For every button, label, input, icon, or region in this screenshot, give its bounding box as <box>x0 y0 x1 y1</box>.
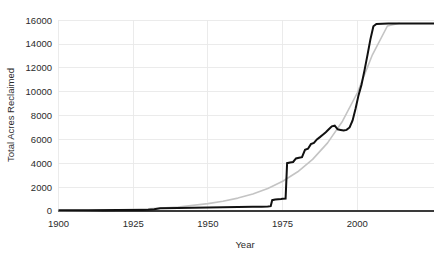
y-tick-label-8000: 8000 <box>31 110 52 121</box>
y-tick-label-2000: 2000 <box>31 182 52 193</box>
x-tick-label-1975: 1975 <box>272 218 293 229</box>
y-tick-label-16000: 16000 <box>26 15 52 26</box>
y-tick-label-6000: 6000 <box>31 134 52 145</box>
x-tick-label-1950: 1950 <box>197 218 218 229</box>
y-axis-tick-labels: 0 2000 4000 6000 8000 10000 12000 14000 … <box>26 15 52 217</box>
y-axis-title: Total Acres Reclaimed <box>5 68 16 162</box>
x-axis-title: Year <box>235 239 254 250</box>
y-tick-label-0: 0 <box>47 205 52 216</box>
x-axis-tick-labels: 1900 1925 1950 1975 2000 <box>48 218 368 229</box>
chart-container: 0 2000 4000 6000 8000 10000 12000 14000 … <box>0 0 439 260</box>
y-tick-label-12000: 12000 <box>26 62 52 73</box>
x-tick-label-1925: 1925 <box>123 218 144 229</box>
y-tick-label-10000: 10000 <box>26 86 52 97</box>
line-chart: 0 2000 4000 6000 8000 10000 12000 14000 … <box>0 0 439 260</box>
y-tick-label-4000: 4000 <box>31 158 52 169</box>
series-fitted-trend <box>59 23 400 211</box>
series-observed-cumulative <box>59 24 435 211</box>
x-tick-label-1900: 1900 <box>48 218 69 229</box>
x-tick-label-2000: 2000 <box>347 218 368 229</box>
y-tick-label-14000: 14000 <box>26 38 52 49</box>
